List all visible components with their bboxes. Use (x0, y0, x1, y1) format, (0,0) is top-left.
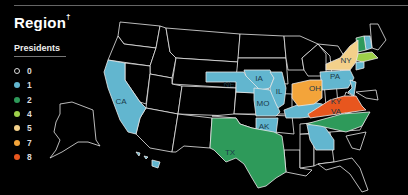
state-fl (318, 158, 368, 192)
state-me (370, 24, 386, 50)
svg-text:IA: IA (255, 74, 263, 83)
svg-text:NY: NY (340, 56, 352, 65)
svg-text:MO: MO (257, 99, 270, 108)
state-md (356, 90, 378, 100)
state-mt (166, 28, 240, 62)
svg-text:VA: VA (331, 107, 342, 116)
state-co (178, 86, 236, 116)
svg-text:NE: NE (223, 80, 234, 89)
state-nd (238, 34, 286, 58)
state-nm (172, 114, 212, 152)
svg-text:PA: PA (330, 72, 341, 81)
svg-text:CA: CA (115, 97, 127, 106)
state-hi (136, 152, 160, 168)
state-sc (346, 132, 366, 150)
svg-text:AK: AK (259, 122, 270, 131)
svg-text:KY: KY (331, 97, 342, 106)
state-ct (356, 62, 364, 70)
svg-text:OH: OH (309, 84, 321, 93)
us-map: CA NE IA IL MO AK TX KY OH PA NY VA VA (0, 0, 408, 195)
state-ma (356, 52, 378, 62)
state-alaska (50, 102, 100, 158)
svg-text:TX: TX (225, 148, 236, 157)
svg-text:IL: IL (276, 87, 283, 96)
